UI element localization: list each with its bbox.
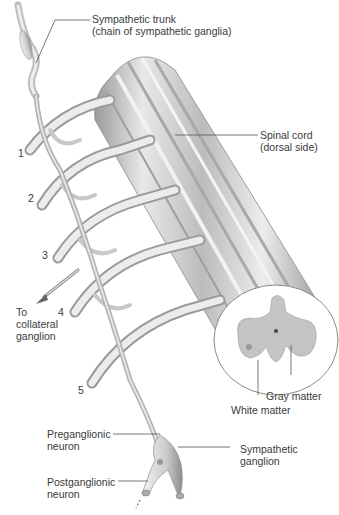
arrow-to-collateral-icon — [36, 294, 48, 304]
label-spinal-cord-line1: Spinal cord — [260, 129, 318, 141]
nerve-number-5: 5 — [78, 384, 84, 396]
label-to-collateral-ganglion: To collateral ganglion — [16, 306, 58, 342]
label-spinal-cord-line2: (dorsal side) — [260, 141, 318, 153]
label-preganglionic-line1: Preganglionic — [47, 428, 111, 440]
label-spinal-cord: Spinal cord (dorsal side) — [260, 129, 318, 153]
label-sympathetic-ganglion-line1: Sympathetic — [240, 443, 298, 455]
label-preganglionic-neuron: Preganglionic neuron — [47, 428, 111, 452]
label-sympathetic-trunk-line1: Sympathetic trunk — [92, 13, 232, 25]
nerve-number-1: 1 — [18, 147, 24, 159]
label-sympathetic-ganglion: Sympathetic ganglion — [240, 443, 298, 467]
label-preganglionic-line2: neuron — [47, 440, 111, 452]
label-sympathetic-trunk-line2: (chain of sympathetic ganglia) — [92, 25, 232, 37]
label-to-collateral-line2: collateral — [16, 318, 58, 330]
label-postganglionic-line2: neuron — [47, 488, 115, 500]
label-sympathetic-trunk: Sympathetic trunk (chain of sympathetic … — [92, 13, 232, 37]
sympathetic-trunk — [17, 5, 36, 96]
label-white-matter: White matter — [231, 404, 291, 416]
sympathetic-ganglion — [136, 435, 184, 508]
label-to-collateral-line3: ganglion — [16, 330, 58, 342]
nerve-number-4: 4 — [58, 306, 64, 318]
label-postganglionic-line1: Postganglionic — [47, 476, 115, 488]
label-sympathetic-ganglion-line2: ganglion — [240, 455, 298, 467]
label-postganglionic-neuron: Postganglionic neuron — [47, 476, 115, 500]
spinal-cord-cross-section — [214, 285, 338, 395]
label-to-collateral-line1: To — [16, 306, 58, 318]
nerve-number-2: 2 — [28, 192, 34, 204]
label-gray-matter: Gray matter — [266, 390, 321, 402]
nerve-number-3: 3 — [42, 249, 48, 261]
